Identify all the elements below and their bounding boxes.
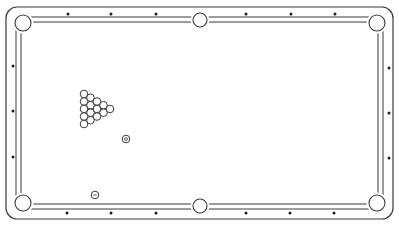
diamond-marker bbox=[245, 212, 248, 215]
diamond-marker bbox=[289, 212, 292, 215]
pocket-top-right bbox=[369, 15, 385, 31]
diamond-marker bbox=[245, 13, 248, 16]
pocket-top-left bbox=[15, 15, 31, 31]
pocket-top-side bbox=[193, 13, 207, 27]
pocket-bottom-side bbox=[193, 199, 207, 213]
diamond-marker bbox=[388, 157, 391, 160]
diamond-marker bbox=[388, 67, 391, 70]
pool-table-scene bbox=[0, 0, 399, 226]
diamond-marker bbox=[290, 13, 293, 16]
diamond-marker bbox=[155, 13, 158, 16]
cushion-edge bbox=[21, 22, 378, 204]
diamond-marker bbox=[12, 110, 15, 113]
diamond-marker bbox=[333, 212, 336, 215]
diamond-marker bbox=[66, 212, 69, 215]
diamond-marker bbox=[155, 212, 158, 215]
diamond-marker bbox=[110, 13, 113, 16]
cue-ball-circle[interactable] bbox=[122, 135, 130, 143]
diamond-marker bbox=[110, 212, 113, 215]
table-frame bbox=[6, 7, 393, 219]
diamond-marker bbox=[67, 13, 70, 16]
diamond-marker bbox=[12, 65, 15, 68]
cue-ball[interactable] bbox=[122, 135, 130, 143]
diamond-marker bbox=[388, 112, 391, 115]
diamond-marker bbox=[12, 156, 15, 159]
diamond-marker bbox=[334, 13, 337, 16]
racked-ball[interactable] bbox=[106, 105, 114, 113]
pocket-bottom-right bbox=[369, 195, 385, 211]
pool-table bbox=[0, 0, 399, 226]
object-ball[interactable] bbox=[91, 191, 99, 199]
pocket-bottom-left bbox=[15, 195, 31, 211]
